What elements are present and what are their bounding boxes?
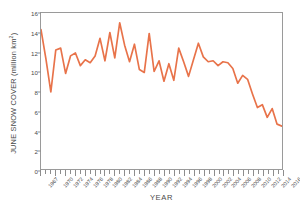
x-tick-mark (268, 170, 269, 174)
x-tick-mark (129, 170, 130, 174)
x-tick-mark (45, 170, 46, 174)
x-tick-mark (60, 170, 61, 174)
x-tick-mark (228, 170, 229, 174)
y-axis-title-text: JUNE SNOW COVER (million km (9, 38, 18, 153)
y-tick-mark (38, 32, 41, 33)
x-tick-mark (70, 170, 71, 174)
x-tick-mark (109, 170, 110, 174)
x-tick-mark (100, 170, 101, 174)
x-tick-label: 1974 (82, 176, 94, 189)
y-tick-mark (38, 131, 41, 132)
x-tick-mark (149, 170, 150, 174)
x-tick-mark (219, 170, 220, 174)
data-line-container (41, 13, 282, 169)
x-tick-mark (189, 170, 190, 174)
y-tick-label: 12 (31, 49, 38, 56)
x-tick-mark (139, 170, 140, 174)
x-tick-mark (248, 170, 249, 174)
x-tick-mark (258, 170, 259, 174)
y-tick-mark (38, 52, 41, 53)
x-tick-mark (159, 170, 160, 174)
x-tick-mark (169, 170, 170, 174)
y-tick-label: 16 (31, 10, 38, 17)
y-tick-label: 10 (31, 69, 38, 76)
y-tick-label: 14 (31, 29, 38, 36)
x-tick-label: 2016 (290, 176, 300, 189)
y-axis-title: JUNE SNOW COVER (million km2) (8, 18, 18, 168)
x-tick-mark (199, 170, 200, 174)
chart-figure: JUNE SNOW COVER (million km2) 0246810121… (0, 0, 300, 208)
y-tick-mark (38, 13, 41, 14)
y-tick-mark (38, 151, 41, 152)
x-axis-title: YEAR (40, 193, 283, 202)
line-chart-svg (41, 13, 282, 169)
y-tick-mark (38, 72, 41, 73)
x-tick-mark (90, 170, 91, 174)
x-tick-mark (119, 170, 120, 174)
x-tick-label: 2000 (211, 176, 223, 189)
x-tick-mark (278, 170, 279, 174)
x-tick-label: 1967 (47, 176, 59, 189)
snow-cover-line (41, 23, 282, 126)
x-tick-mark (283, 170, 284, 176)
x-tick-mark (209, 170, 210, 174)
x-tick-mark (80, 170, 81, 174)
x-axis-tick-labels: 1967197019721974197619781980198219841986… (40, 176, 283, 192)
x-tick-mark (179, 170, 180, 174)
y-tick-mark (38, 111, 41, 112)
y-tick-mark (38, 92, 41, 93)
x-tick-label: 1998 (201, 176, 213, 189)
x-tick-label: 1976 (92, 176, 104, 189)
y-axis-title-superscript: 2 (8, 35, 14, 38)
y-axis-title-suffix: ) (9, 33, 18, 36)
x-tick-mark (238, 170, 239, 174)
x-tick-mark (50, 170, 51, 174)
plot-area: 0246810121416 (40, 12, 283, 170)
